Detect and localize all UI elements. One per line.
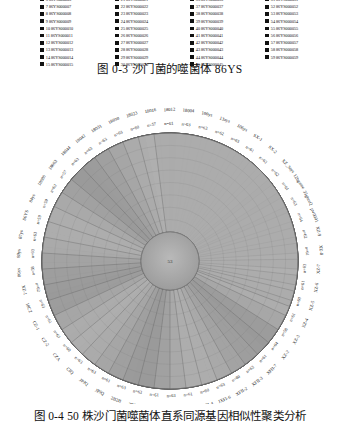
legend-item: 28 86YS000028 [115, 46, 187, 53]
legend-swatch-icon [190, 48, 194, 52]
legend-item: 39 86YS000039 [190, 18, 262, 25]
dendrogram-n-label: n=63 [113, 129, 124, 138]
legend-swatch-icon [115, 41, 119, 45]
legend-item: 13 86YS000013 [40, 46, 112, 53]
legend-item: 54 86YS000054 [265, 18, 337, 25]
legend-item-label: 38 86YS000038 [196, 10, 223, 17]
dendrogram-strain-label: 18016 [144, 107, 157, 114]
figure-caption-top: 图 0-3 沙门菌的噬菌体 86YS [0, 60, 340, 76]
dendrogram-n-label: n=61 [44, 314, 53, 324]
dendrogram-strain-label: 35gtuxQ [302, 190, 314, 207]
legend-item-label: 37 86YS000037 [196, 3, 223, 10]
legend-swatch-icon [190, 19, 194, 23]
dendrogram-n-label: n=63 [32, 231, 38, 241]
legend-item: 40 86YS000040 [190, 25, 262, 32]
dendrogram-n-label: n=61 [245, 144, 255, 153]
legend-swatch-icon [265, 34, 269, 38]
legend-item: 12 86YS000012 [40, 39, 112, 46]
dendrogram-strain-label: XZ-7 [316, 263, 321, 274]
legend-item-label: 43 86YS000043 [196, 46, 223, 53]
legend-item: 37 86YS000037 [190, 3, 262, 10]
legend-item-label: 27 86YS000027 [121, 39, 148, 46]
dendrogram-strain-label: 18012 [164, 107, 176, 113]
dendrogram-n-label: n=57 [147, 121, 158, 128]
dendrogram-strain-label: 18023 [125, 110, 138, 118]
legend-item: 52 86YS000052 [265, 3, 337, 10]
legend-swatch-icon [190, 55, 194, 59]
dendrogram-strain-label: JXFI-6 [217, 394, 232, 404]
dendrogram-strain-label: JPJQ [79, 377, 90, 387]
dendrogram-n-label: n=60 [199, 387, 210, 395]
legend-item-label: 7 86YS000007 [46, 3, 71, 10]
legend-item: 55 86YS000055 [265, 25, 337, 32]
legend-item: 27 86YS000027 [115, 39, 187, 46]
dendrogram-strain-label: 100ys [201, 110, 213, 117]
dendrogram-n-label: n=63 [97, 136, 108, 145]
dendrogram-n-label: n=61 [183, 391, 193, 397]
circular-dendrogram-figure: 53 86ysn=5889ysn=6387ysn=6386YSn=5984ysn… [0, 86, 340, 404]
legend-swatch-icon [115, 5, 119, 9]
legend-swatch-icon [265, 12, 269, 16]
legend-swatch-icon [265, 19, 269, 23]
dendrogram-strain-label: JXFI-4 [200, 401, 215, 404]
legend-item-label: 8 86YS000008 [46, 10, 71, 17]
legend-swatch-icon [115, 12, 119, 16]
legend-item: 58 86YS000058 [265, 46, 337, 53]
legend-item-label: 22 86YS000022 [121, 3, 148, 10]
legend-swatch-icon [190, 34, 194, 38]
dendrogram-n-label: n=62 [49, 183, 58, 193]
legend-item: 11 86YS000011 [40, 32, 112, 39]
dendrogram-strain-label: SX-2 [267, 144, 278, 155]
legend-item: 57 86YS000057 [265, 39, 337, 46]
legend-item-label: 23 86YS000023 [121, 10, 148, 17]
dendrogram-strain-label: XZ_3ays [281, 158, 296, 174]
dendrogram-n-label: n=63 [87, 366, 98, 376]
legend-swatch-icon [265, 48, 269, 52]
dendrogram-strain-label: XFII-3 [251, 375, 265, 387]
dendrogram-strain-label: 18044 [60, 145, 72, 157]
legend-item: 8 86YS000008 [40, 10, 112, 17]
dendrogram-n-label: n=61 [304, 246, 310, 256]
dendrogram-n-label: n=63 [70, 156, 80, 167]
legend-item: 24 86YS000024 [115, 18, 187, 25]
legend-swatch-icon [265, 0, 269, 1]
dendrogram-n-label: n=63 [133, 388, 144, 395]
dendrogram-strain-label: 106ys [236, 123, 248, 132]
dendrogram-n-label: n=61 [164, 121, 173, 126]
dendrogram-n-label: n=63 [74, 355, 85, 365]
dendrogram-strain-label: XZ-3 [291, 333, 301, 345]
legend-item-label: 55 86YS000055 [271, 25, 298, 32]
dendrogram-n-label: n=63 [166, 393, 176, 398]
legend-swatch-icon [40, 55, 44, 59]
legend-item-label: 12 86YS000012 [46, 39, 73, 46]
legend-item-label: 52 86YS000052 [271, 3, 298, 10]
legend-item-label: 41 86YS000041 [196, 32, 223, 39]
dendrogram-strain-label: 2B2B [128, 402, 140, 404]
dendrogram-strain-label: 12bgame [292, 173, 306, 190]
dendrogram-strain-label: SX-1 [252, 133, 263, 143]
dendrogram-n-label: n=60 [231, 373, 242, 382]
legend-swatch-icon [115, 48, 119, 52]
dendrogram-strain-label: XZ-4 [301, 317, 310, 329]
legend-item: 25 86YS000025 [115, 25, 187, 32]
dendrogram-n-label: n=62 [301, 229, 308, 239]
dendrogram-n-label: n=58 [30, 265, 36, 275]
dendrogram-strain-label: 89ys [16, 249, 21, 258]
legend-item-label: 28 86YS000028 [121, 46, 148, 53]
page-root: 6 86YS00000621 86YS00002136 86YS00003651… [0, 0, 340, 434]
legend-item-label: 24 86YS000024 [121, 18, 148, 25]
dendrogram-strain-label: CZA [52, 352, 62, 363]
dendrogram-strain-label: CZ-2 [40, 336, 50, 347]
legend-item-label: 13 86YS000013 [46, 46, 73, 53]
dendrogram-n-label: n=63 [230, 136, 241, 145]
legend-swatch-icon [190, 41, 194, 45]
dendrogram-strain-label: CIQ [65, 366, 75, 375]
dendrogram-n-label: n=63 [181, 121, 191, 127]
legend-item: 53 86YS000053 [265, 10, 337, 17]
legend-item-label: 26 86YS000026 [121, 32, 148, 39]
legend-item-label: 54 86YS000054 [271, 18, 298, 25]
dendrogram-strain-label: JPJQ [94, 388, 105, 397]
dendrogram-strain-label: CZ-1 [32, 320, 41, 332]
legend-item: 43 86YS000043 [190, 46, 262, 53]
legend-swatch-icon [40, 27, 44, 31]
